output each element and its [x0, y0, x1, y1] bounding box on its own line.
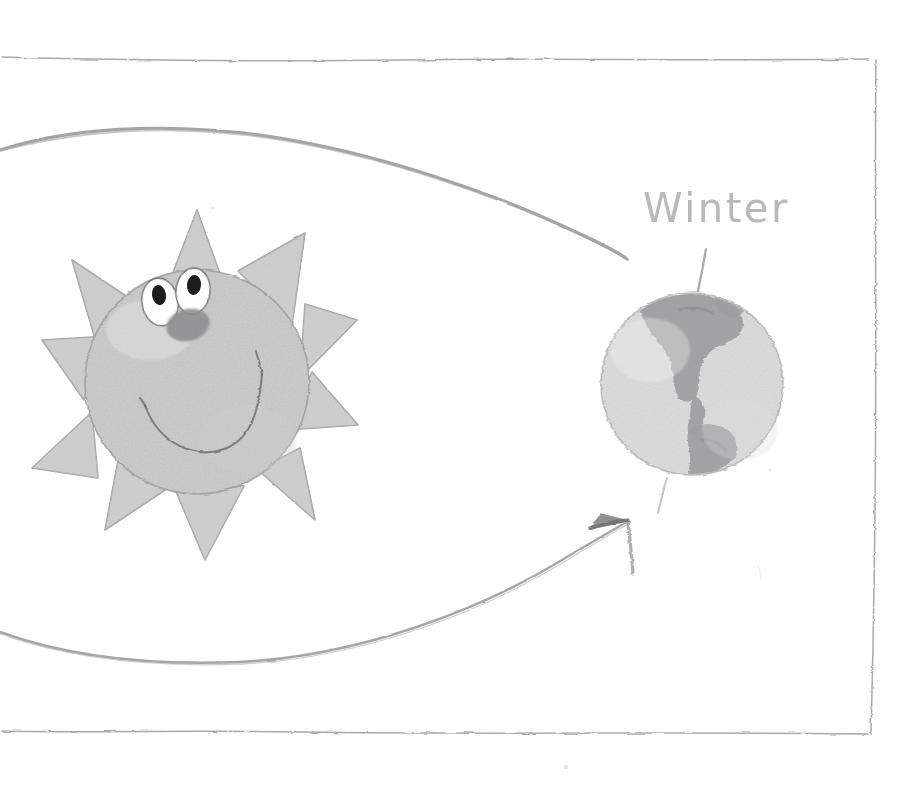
earth-globe [601, 249, 783, 513]
sun-with-face [32, 210, 358, 560]
frame-border-bottom [2, 731, 868, 734]
frame-border-right [871, 60, 876, 734]
orbit-arc-upper [0, 128, 628, 260]
earth-axis-top [698, 249, 706, 291]
frame-border-top [2, 57, 868, 61]
diagram-canvas: Winter [0, 0, 920, 787]
orbit-arc-lower [0, 522, 628, 665]
diagram-svg-root [0, 0, 920, 787]
orbit-arrowhead-icon [590, 514, 633, 574]
earth-axis-bottom [658, 478, 667, 513]
winter-label: Winter [643, 185, 790, 231]
